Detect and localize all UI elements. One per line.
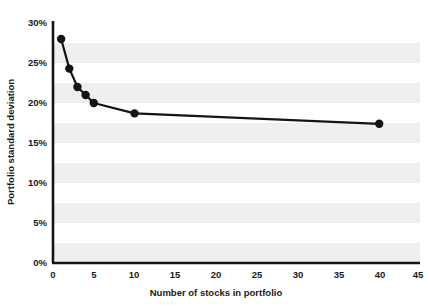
x-tick-label: 45	[413, 269, 424, 280]
data-point	[73, 83, 81, 91]
x-tick-label: 15	[170, 269, 181, 280]
portfolio-risk-line-chart: 0% 5% 10% 15% 20% 25% 30% 0 5 10 15 20 2…	[0, 0, 429, 307]
x-axis-title: Number of stocks in portfolio	[150, 287, 283, 298]
data-point	[81, 91, 89, 99]
y-tick-label: 30%	[28, 17, 48, 28]
x-tick-label: 35	[334, 269, 345, 280]
chart-figure: 0% 5% 10% 15% 20% 25% 30% 0 5 10 15 20 2…	[0, 0, 429, 307]
x-tick-label: 5	[91, 269, 97, 280]
data-point	[57, 35, 65, 43]
y-tick-label: 5%	[33, 217, 47, 228]
x-tick-label: 10	[129, 269, 140, 280]
data-point	[65, 64, 73, 72]
data-point	[130, 109, 138, 117]
y-axis-title: Portfolio standard deviation	[5, 79, 16, 205]
x-tick-label: 40	[375, 269, 386, 280]
data-point	[375, 120, 383, 128]
x-tick-label: 30	[293, 269, 304, 280]
y-tick-label: 20%	[28, 97, 48, 108]
x-tick-label: 20	[211, 269, 222, 280]
y-tick-label: 15%	[28, 137, 48, 148]
x-tick-label: 0	[50, 269, 55, 280]
x-tick-label: 25	[252, 269, 263, 280]
y-tick-label: 10%	[28, 177, 48, 188]
data-point	[90, 99, 98, 107]
y-tick-label: 0%	[33, 257, 47, 268]
y-tick-label: 25%	[28, 57, 48, 68]
